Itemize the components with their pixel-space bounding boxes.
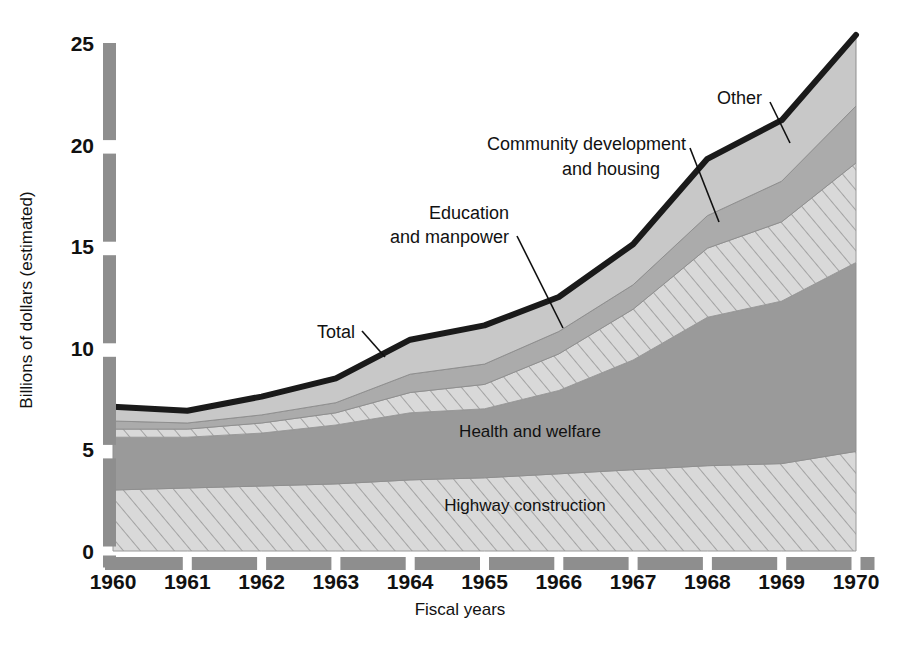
x-axis-segment [489,557,554,570]
x-axis-segment [712,557,777,570]
callout-label-other: Other [717,88,762,108]
y-tick-label-5: 5 [82,438,94,461]
x-tick-label-1962: 1962 [238,570,285,593]
callout-label-education-line1: Education [429,203,509,223]
x-tick-label-1970: 1970 [833,570,880,593]
x-axis-segment [415,557,480,570]
x-axis-segment [861,557,875,570]
band-label-health-and-welfare: Health and welfare [459,422,601,441]
y-axis-segment [103,458,116,546]
x-axis-segment [266,557,331,570]
y-axis-segment [103,154,116,242]
x-tick-label-1965: 1965 [461,570,508,593]
x-axis-segment [638,557,703,570]
y-axis-bar [103,43,116,568]
x-tick-label-1968: 1968 [684,570,731,593]
x-tick-label-1966: 1966 [535,570,582,593]
y-tick-label-25: 25 [71,32,95,55]
x-axis-title: Fiscal years [415,600,506,619]
x-tick-label-1969: 1969 [758,570,805,593]
x-tick-label-1961: 1961 [164,570,211,593]
x-axis-segment [105,557,183,570]
x-axis-segment [563,557,628,570]
band-label-highway-construction: Highway construction [444,496,606,515]
y-axis-segment [103,255,116,343]
y-tick-label-10: 10 [71,337,94,360]
x-axis-segment [192,557,257,570]
y-tick-label-0: 0 [82,540,94,563]
y-axis-segment [103,357,116,445]
x-tick-label-1963: 1963 [313,570,360,593]
x-tick-label-1960: 1960 [90,570,137,593]
stacked-area-chart: 2520151050 19601961196219631964196519661… [0,0,899,654]
x-axis-segment [786,557,851,570]
x-axis-tick-labels: 1960196119621963196419651966196719681969… [90,570,880,593]
y-tick-label-20: 20 [71,134,94,157]
x-tick-label-1964: 1964 [387,570,434,593]
y-axis-segment [103,43,116,140]
x-axis-bar [105,557,875,570]
y-tick-label-15: 15 [71,235,95,258]
callout-label-community-line1: Community development [487,134,686,154]
x-tick-label-1967: 1967 [610,570,657,593]
chart-figure: 2520151050 19601961196219631964196519661… [0,0,899,654]
callout-label-education-line2: and manpower [390,227,509,247]
callout-label-community-line2: and housing [562,159,660,179]
callout-label-total: Total [317,322,355,342]
y-axis-title: Billions of dollars (estimated) [17,191,36,408]
x-axis-segment [340,557,405,570]
